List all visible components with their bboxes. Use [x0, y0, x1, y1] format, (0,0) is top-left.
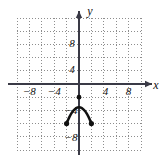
y-tick-label-8: 8	[69, 37, 75, 49]
graph-figure: x y −8 −4 4 8 8 4 −4 −8	[0, 0, 165, 163]
y-tick-label-4: 4	[69, 63, 75, 75]
vertex-dot	[77, 95, 82, 100]
x-tick-label-8: 8	[126, 85, 132, 97]
left-endpoint-dot	[64, 121, 69, 126]
x-tick-label-neg8: −8	[23, 85, 36, 97]
y-axis-arrowhead	[76, 11, 82, 18]
x-axis-arrowhead	[145, 81, 152, 87]
right-endpoint-dot	[89, 121, 94, 126]
coordinate-plane-svg: x y −8 −4 4 8 8 4 −4 −8	[0, 0, 165, 163]
x-axis-label: x	[152, 78, 159, 92]
y-tick-label-neg8: −8	[65, 131, 78, 143]
x-tick-label-neg4: −4	[48, 85, 61, 97]
y-axis-label: y	[86, 4, 93, 18]
x-tick-label-4: 4	[103, 85, 109, 97]
